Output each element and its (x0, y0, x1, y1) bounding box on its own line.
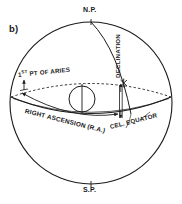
north-pole-label: N.P. (83, 6, 97, 13)
south-pole-label: S.P. (83, 186, 96, 193)
celestial-sphere-drawing (0, 0, 182, 204)
celestial-sphere-figure: b) N.P. S.P. 1ST PT OF ARIES RIGHT ASCEN… (0, 0, 182, 204)
outer-sphere-circle (10, 22, 172, 184)
panel-label: b) (9, 24, 18, 34)
declination-meridian-arc (91, 22, 131, 114)
declination-label: DECLINATION (115, 34, 121, 78)
